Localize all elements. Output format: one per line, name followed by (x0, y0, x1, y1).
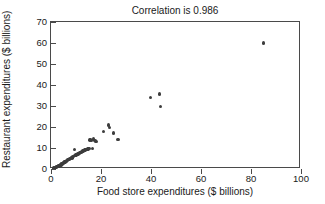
data-point (158, 92, 161, 95)
data-point (73, 148, 76, 151)
y-axis-tick (51, 43, 56, 44)
data-point (108, 126, 111, 129)
data-point (262, 41, 265, 44)
x-axis-tick-label: 100 (293, 174, 309, 184)
data-point (116, 138, 119, 141)
x-axis-tick-label: 60 (196, 174, 207, 184)
y-axis-tick-label: 30 (36, 101, 47, 111)
y-axis-tick (51, 64, 56, 65)
data-point (149, 96, 152, 99)
y-axis-tick-label: 70 (36, 17, 47, 27)
y-axis-tick (51, 22, 56, 23)
x-axis-tick-label: 20 (96, 174, 107, 184)
data-points-layer (51, 22, 299, 167)
y-axis-tick-label: 60 (36, 38, 47, 48)
x-axis-tick-label: 40 (146, 174, 157, 184)
y-axis-tick (51, 127, 56, 128)
x-axis-title: Food store expenditures ($ billions) (50, 186, 300, 198)
y-axis-title: Restaurant expenditures ($ billions) (0, 21, 14, 168)
x-axis-tick-label: 80 (246, 174, 257, 184)
y-axis-tick-label: 0 (42, 164, 47, 174)
y-axis-tick-label: 40 (36, 80, 47, 90)
chart-title: Correlation is 0.986 (50, 5, 300, 17)
data-point (102, 130, 105, 133)
y-axis-tick (51, 148, 56, 149)
x-axis-tick-label: 0 (48, 174, 53, 184)
scatter-chart: Correlation is 0.986 Restaurant expendit… (0, 0, 325, 204)
plot-area: 010203040506070 020406080100 (50, 21, 300, 168)
data-point (95, 140, 98, 143)
y-axis-tick-label: 50 (36, 59, 47, 69)
y-axis-tick (51, 106, 56, 107)
data-point (112, 131, 115, 134)
y-axis-tick-label: 20 (36, 122, 47, 132)
data-point (91, 147, 94, 150)
y-axis-tick (51, 85, 56, 86)
y-axis-tick-label: 10 (36, 143, 47, 153)
data-point (159, 105, 162, 108)
